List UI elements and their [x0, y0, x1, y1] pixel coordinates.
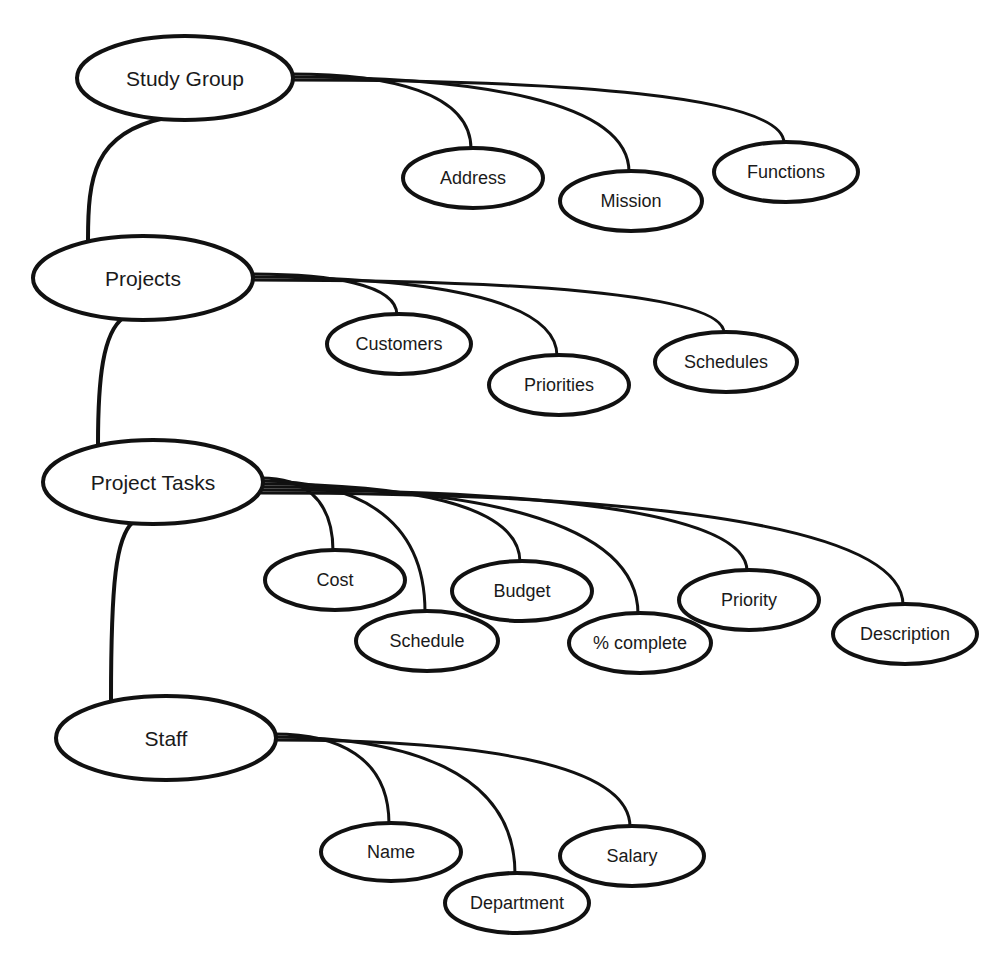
attribute-label: % complete	[593, 633, 687, 653]
attribute-node-salary: Salary	[560, 826, 704, 886]
entity-node-staff: Staff	[56, 696, 276, 780]
attribute-label: Mission	[600, 191, 661, 211]
entity-label: Study Group	[126, 67, 244, 90]
attribute-label: Priorities	[524, 375, 594, 395]
hierarchy-link-study-group-to-projects	[88, 118, 165, 240]
attribute-label: Functions	[747, 162, 825, 182]
entity-label: Project Tasks	[91, 471, 216, 494]
attribute-label: Cost	[316, 570, 353, 590]
attribute-label: Department	[470, 893, 564, 913]
attribute-link-projects-schedules	[251, 280, 724, 333]
attribute-node-customers: Customers	[327, 314, 471, 374]
attribute-node-schedule: Schedule	[356, 611, 498, 671]
attribute-label: Salary	[606, 846, 657, 866]
attribute-link-study-group-functions	[291, 80, 784, 143]
attribute-node-functions: Functions	[714, 142, 858, 202]
attribute-node-description: Description	[833, 604, 977, 664]
nodes: Study GroupAddressMissionFunctionsProjec…	[33, 36, 977, 933]
attribute-label: Name	[367, 842, 415, 862]
attribute-label: Budget	[493, 581, 550, 601]
entity-node-projects: Projects	[33, 236, 253, 320]
attribute-node-priorities: Priorities	[489, 355, 629, 415]
attribute-label: Schedules	[684, 352, 768, 372]
entity-label: Staff	[145, 727, 188, 750]
attribute-node-schedules: Schedules	[655, 332, 797, 392]
attribute-label: Customers	[355, 334, 442, 354]
attribute-node-department: Department	[445, 873, 589, 933]
attribute-label: Description	[860, 624, 950, 644]
hierarchy-link-projects-to-project-tasks	[98, 318, 123, 444]
attribute-node-name: Name	[321, 823, 461, 881]
attribute-link-staff-salary	[274, 740, 630, 827]
hierarchy-link-project-tasks-to-staff	[111, 522, 133, 700]
entity-node-study-group: Study Group	[77, 36, 293, 120]
attribute-node-priority: Priority	[679, 570, 819, 630]
attribute-node-cost: Cost	[265, 550, 405, 610]
attribute-link-staff-name	[274, 734, 389, 824]
attribute-label: Address	[440, 168, 506, 188]
attribute-label: Schedule	[389, 631, 464, 651]
attribute-node-pct-complete: % complete	[569, 613, 711, 673]
entity-label: Projects	[105, 267, 181, 290]
attribute-node-mission: Mission	[560, 171, 702, 231]
attribute-node-address: Address	[403, 148, 543, 208]
attribute-label: Priority	[721, 590, 777, 610]
entity-node-project-tasks: Project Tasks	[43, 440, 263, 524]
data-model-diagram: Study GroupAddressMissionFunctionsProjec…	[0, 0, 1002, 964]
attribute-node-budget: Budget	[452, 561, 592, 621]
